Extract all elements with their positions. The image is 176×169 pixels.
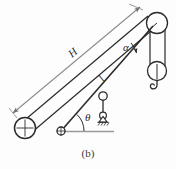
angle-alpha-label: α bbox=[123, 41, 129, 53]
lower-block-group bbox=[148, 62, 167, 89]
height-dimension-line bbox=[13, 7, 140, 113]
angle-alpha-group: α bbox=[123, 41, 137, 53]
boom-length-label-group: l bbox=[96, 73, 107, 83]
boom-length-label: l bbox=[96, 73, 107, 83]
load-hook-icon bbox=[150, 81, 157, 89]
angle-theta-label: θ bbox=[85, 111, 91, 123]
hydraulic-strut-group bbox=[98, 92, 110, 126]
angle-theta-group: θ bbox=[77, 111, 91, 131]
crane-mechanism-figure: α θ H l (b) bbox=[0, 0, 176, 169]
boom-pivot-group bbox=[57, 127, 66, 136]
dimension-tick-left bbox=[9, 108, 17, 118]
dimension-tick-right bbox=[129, 4, 143, 10]
left-wheel-group bbox=[15, 118, 36, 139]
figure-caption: (b) bbox=[0, 148, 176, 159]
height-label-group: H bbox=[65, 45, 80, 61]
hoist-cable-lower bbox=[31, 31, 151, 133]
hoist-cable-upper bbox=[26, 16, 148, 119]
pin-support-hatching bbox=[98, 123, 109, 126]
crane-diagram-svg: α θ H l bbox=[0, 0, 176, 169]
height-dimension-label: H bbox=[65, 45, 80, 61]
boom-mid-joint-icon bbox=[99, 92, 107, 100]
angle-theta-arc bbox=[77, 115, 84, 132]
